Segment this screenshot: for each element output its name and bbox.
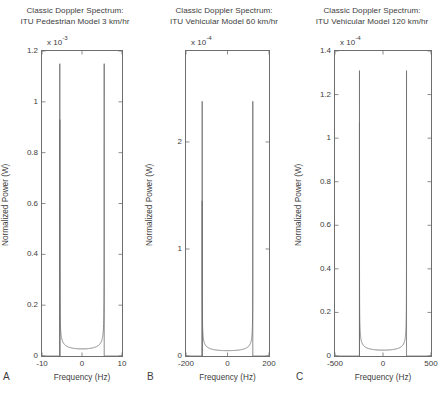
panel-c-letter: C: [296, 371, 303, 382]
panel-b-title: Classic Doppler Spectrum: ITU Vehicular …: [150, 6, 298, 27]
panel-b-title-line2: ITU Vehicular Model 60 km/hr: [150, 17, 298, 28]
panel-a-exponent-power: -3: [62, 34, 68, 41]
panel-b-exponent-mantissa: x 10: [191, 38, 206, 47]
panel-a-title: Classic Doppler Spectrum: ITU Pedestrian…: [0, 6, 150, 27]
panel-a-y-exponent: x 10-3: [47, 35, 68, 47]
doppler-spectrum-figure: Classic Doppler Spectrum: ITU Pedestrian…: [0, 0, 446, 394]
panel-a-x-axis-label: Frequency (Hz): [31, 373, 133, 382]
x-tick-label: -10: [22, 359, 62, 368]
panel-a-title-line1: Classic Doppler Spectrum:: [0, 6, 150, 17]
x-tick-label: -200: [166, 359, 206, 368]
y-tick-label: 1: [154, 244, 182, 253]
panel-b-x-axis-label: Frequency (Hz): [175, 373, 280, 382]
panel-b-title-line1: Classic Doppler Spectrum:: [150, 6, 298, 17]
x-tick-label: 10: [102, 359, 142, 368]
y-tick-label: 0.4: [303, 264, 331, 273]
y-tick-label: 0.8: [303, 177, 331, 186]
y-tick-label: 0.6: [10, 199, 38, 208]
panel-c-x-axis-label: Frequency (Hz): [324, 373, 442, 382]
panel-a-curve-svg: [42, 51, 122, 356]
panel-c-title-line2: ITU Vehicular Model 120 km/hr: [298, 17, 446, 28]
panel-c-y-exponent: x 10-4: [340, 35, 361, 47]
y-tick-label: 1.2: [303, 90, 331, 99]
panel-b-plot-box: [185, 50, 270, 357]
panel-c-plot-box: [334, 50, 432, 357]
y-tick-label: 1: [303, 133, 331, 142]
doppler-spectrum-curve: [359, 71, 406, 356]
y-tick-label: 0.4: [10, 249, 38, 258]
panel-c-exponent-power: -4: [355, 34, 361, 41]
y-tick-label: 1: [10, 97, 38, 106]
x-tick-label: -500: [315, 359, 355, 368]
y-tick-label: 0.8: [10, 148, 38, 157]
y-tick-label: 1.2: [10, 46, 38, 55]
subplot-panel-c: Classic Doppler Spectrum: ITU Vehicular …: [298, 0, 446, 394]
panel-c-title-line1: Classic Doppler Spectrum:: [298, 6, 446, 17]
panel-b-exponent-power: -4: [206, 34, 212, 41]
x-tick-label: 0: [62, 359, 102, 368]
panel-c-y-axis-label: Normalized Power (W): [294, 163, 303, 245]
doppler-spectrum-curve: [202, 101, 253, 356]
y-tick-label: 0.2: [303, 307, 331, 316]
panel-a-title-line2: ITU Pedestrian Model 3 km/hr: [0, 17, 150, 28]
doppler-spectrum-curve: [60, 64, 104, 356]
panel-b-letter: B: [147, 371, 154, 382]
panel-b-y-exponent: x 10-4: [191, 35, 212, 47]
subplot-panel-a: Classic Doppler Spectrum: ITU Pedestrian…: [0, 0, 150, 394]
panel-a-exponent-mantissa: x 10: [47, 38, 62, 47]
panel-c-title: Classic Doppler Spectrum: ITU Vehicular …: [298, 6, 446, 27]
panel-a-letter: A: [3, 371, 10, 382]
x-tick-label: 0: [363, 359, 403, 368]
panel-c-curve-svg: [335, 51, 431, 356]
panel-c-exponent-mantissa: x 10: [340, 38, 355, 47]
y-tick-label: 0.6: [303, 220, 331, 229]
y-tick-label: 0.2: [10, 300, 38, 309]
x-tick-label: 0: [208, 359, 248, 368]
x-tick-label: 200: [249, 359, 289, 368]
panel-b-y-axis-label: Normalized Power (W): [145, 163, 154, 245]
x-tick-label: 500: [411, 359, 446, 368]
y-tick-label: 1.4: [303, 46, 331, 55]
panel-b-curve-svg: [186, 51, 269, 356]
subplot-panel-b: Classic Doppler Spectrum: ITU Vehicular …: [150, 0, 298, 394]
panel-a-plot-box: [41, 50, 123, 357]
panel-a-y-axis-label: Normalized Power (W): [1, 163, 10, 245]
y-tick-label: 2: [154, 137, 182, 146]
